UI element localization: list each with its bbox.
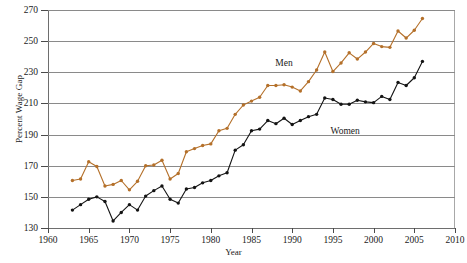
data-point <box>168 197 171 200</box>
x-tick-label-1980: 1980 <box>201 235 220 245</box>
data-point <box>160 159 163 162</box>
data-point <box>225 127 228 130</box>
data-point <box>234 148 237 151</box>
series-men <box>71 17 424 192</box>
data-point <box>168 177 171 180</box>
x-tick-1965 <box>89 228 90 233</box>
data-point <box>315 113 318 116</box>
y-tick-190 <box>41 135 48 136</box>
data-point <box>209 179 212 182</box>
wage-gap-line-chart: Percent Wage Gap Year 130150170190210230… <box>0 0 467 263</box>
data-point <box>103 184 106 187</box>
y-tick-130 <box>41 228 48 229</box>
data-point <box>209 142 212 145</box>
data-point <box>258 127 261 130</box>
series-label-women: Women <box>330 126 359 136</box>
x-tick-2000 <box>374 228 375 233</box>
data-point <box>323 50 326 53</box>
data-point <box>136 180 139 183</box>
data-point <box>339 61 342 64</box>
data-point <box>225 171 228 174</box>
data-point <box>258 96 261 99</box>
data-point <box>364 50 367 53</box>
data-point <box>71 179 74 182</box>
y-tick-label-210: 210 <box>24 98 38 108</box>
data-point <box>396 29 399 32</box>
x-tick-1990 <box>292 228 293 233</box>
x-tick-2005 <box>414 228 415 233</box>
data-point <box>413 76 416 79</box>
series-line-women <box>72 61 422 221</box>
data-point <box>396 81 399 84</box>
x-tick-1985 <box>252 228 253 233</box>
data-point <box>323 96 326 99</box>
x-tick-label-2005: 2005 <box>405 235 424 245</box>
data-point <box>217 129 220 132</box>
data-point <box>413 29 416 32</box>
data-point <box>111 183 114 186</box>
data-point <box>185 187 188 190</box>
data-point <box>274 122 277 125</box>
plot-area: 130150170190210230250270 196019651970197… <box>48 10 455 228</box>
y-axis-title: Percent Wage Gap <box>14 34 24 184</box>
data-point <box>347 103 350 106</box>
data-point <box>331 70 334 73</box>
data-point <box>356 57 359 60</box>
data-point <box>128 188 131 191</box>
data-point <box>250 129 253 132</box>
y-tick-270 <box>41 10 48 11</box>
y-tick-230 <box>41 72 48 73</box>
data-point <box>380 95 383 98</box>
x-tick-label-1985: 1985 <box>242 235 261 245</box>
data-point <box>242 143 245 146</box>
data-point <box>234 113 237 116</box>
data-point <box>111 219 114 222</box>
data-point <box>404 84 407 87</box>
y-tick-210 <box>41 103 48 104</box>
data-point <box>185 150 188 153</box>
data-point <box>152 189 155 192</box>
data-point <box>120 179 123 182</box>
data-point <box>315 68 318 71</box>
x-axis-title: Year <box>0 247 467 257</box>
series-label-men: Men <box>275 58 292 68</box>
data-point <box>356 99 359 102</box>
data-point <box>331 98 334 101</box>
data-point <box>274 84 277 87</box>
data-point <box>71 208 74 211</box>
x-tick-label-1960: 1960 <box>39 235 58 245</box>
series-layer <box>48 10 455 228</box>
data-point <box>364 100 367 103</box>
data-point <box>95 195 98 198</box>
data-point <box>120 211 123 214</box>
series-women <box>71 60 424 223</box>
series-line-men <box>72 19 422 190</box>
data-point <box>404 36 407 39</box>
data-point <box>372 101 375 104</box>
x-tick-1970 <box>129 228 130 233</box>
x-tick-label-2010: 2010 <box>446 235 465 245</box>
data-point <box>201 181 204 184</box>
data-point <box>160 184 163 187</box>
data-point <box>177 172 180 175</box>
x-tick-label-1970: 1970 <box>120 235 139 245</box>
data-point <box>282 83 285 86</box>
data-point <box>128 203 131 206</box>
data-point <box>87 197 90 200</box>
x-tick-label-1995: 1995 <box>323 235 342 245</box>
x-tick-label-1975: 1975 <box>161 235 180 245</box>
x-tick-label-1965: 1965 <box>79 235 98 245</box>
data-point <box>266 84 269 87</box>
data-point <box>193 147 196 150</box>
y-tick-label-250: 250 <box>24 36 38 46</box>
data-point <box>421 60 424 63</box>
data-point <box>266 119 269 122</box>
data-point <box>79 177 82 180</box>
data-point <box>217 174 220 177</box>
data-point <box>201 144 204 147</box>
data-point <box>242 103 245 106</box>
data-point <box>347 51 350 54</box>
data-point <box>136 208 139 211</box>
data-point <box>144 194 147 197</box>
y-tick-label-190: 190 <box>24 130 38 140</box>
